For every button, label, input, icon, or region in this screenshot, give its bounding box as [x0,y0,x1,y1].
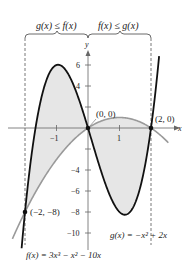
point-right-label: (2, 0) [155,114,175,124]
region-left-label: g(x) ≤ f(x) [36,20,77,32]
tick-label-y-neg10: −10 [67,229,80,238]
brace-right [88,31,151,38]
point-left [23,210,28,215]
y-axis-arrow-icon [86,50,91,56]
point-origin-label: (0, 0) [96,109,116,119]
tick-label-x-neg1: −1 [50,134,59,143]
brace-left [25,31,88,38]
g-formula-label: g(x) = −x² + 2x [110,230,167,240]
tick-label-x-1: 1 [117,134,121,143]
point-right [149,126,154,131]
tick-label-y-neg6: −6 [71,187,80,196]
f-formula-label: f(x) = 3x³ − x² − 10x [26,250,101,260]
region-right-label: f(x) ≤ g(x) [98,20,139,32]
tick-label-y-neg4: −4 [71,166,80,175]
tick-label-y-4: 4 [76,82,80,91]
area-between-curves-chart: g(x) ≤ f(x) f(x) ≤ g(x) y x −1 1 6 4 −4 … [0,0,190,274]
y-axis-label: y [84,40,89,49]
x-axis-label: x [177,124,182,133]
tick-label-y-6: 6 [76,61,80,70]
tick-label-y-neg8: −8 [71,208,80,217]
point-left-label: (−2, −8) [30,207,60,217]
